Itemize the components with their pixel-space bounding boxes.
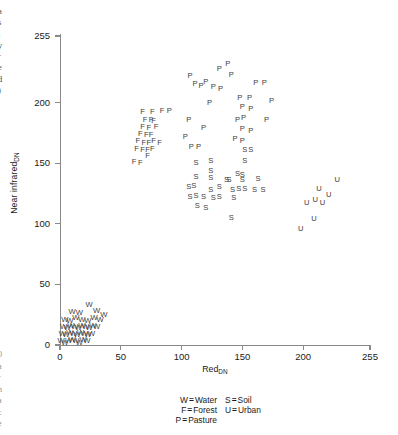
data-point-water: W bbox=[86, 301, 93, 309]
data-point-soil: S bbox=[195, 202, 200, 210]
legend-row: P=Pasture bbox=[160, 415, 290, 425]
data-point-soil: S bbox=[260, 186, 265, 194]
data-point-urban: U bbox=[313, 196, 318, 204]
data-point-soil: S bbox=[236, 185, 241, 193]
x-tick-label: 200 bbox=[288, 351, 318, 362]
data-point-urban: U bbox=[304, 199, 309, 207]
data-point-urban: U bbox=[316, 185, 321, 193]
legend-equals: = bbox=[181, 416, 188, 424]
data-point-soil: S bbox=[229, 214, 234, 222]
legend-item-forest: F=Forest bbox=[160, 405, 225, 415]
data-point-soil: S bbox=[242, 146, 247, 154]
x-axis-title: RedDN bbox=[160, 364, 270, 374]
legend-item-pasture: P=Pasture bbox=[160, 415, 225, 425]
y-axis-title-subscript: DN bbox=[13, 152, 20, 161]
data-point-pasture: P bbox=[196, 144, 201, 152]
y-tick-label: 0 bbox=[24, 339, 50, 350]
data-point-forest: F bbox=[149, 132, 154, 140]
data-point-pasture: P bbox=[248, 105, 253, 113]
data-point-pasture: P bbox=[167, 107, 172, 115]
data-point-soil: S bbox=[208, 174, 213, 182]
data-point-pasture: P bbox=[241, 115, 246, 123]
legend-equals: = bbox=[231, 396, 238, 404]
data-point-pasture: P bbox=[203, 78, 208, 86]
scatter-plot-area: WWWWWWWWWWWWWWWWWWWWWWWWWWWWWWWWWWWWWWWF… bbox=[60, 36, 370, 345]
data-point-pasture: P bbox=[217, 65, 222, 73]
data-point-soil: S bbox=[242, 157, 247, 165]
data-point-pasture: P bbox=[211, 83, 216, 91]
data-point-pasture: P bbox=[207, 99, 212, 107]
y-tick-label: 50 bbox=[24, 278, 50, 289]
data-point-urban: U bbox=[326, 191, 331, 199]
data-point-forest: F bbox=[146, 124, 151, 132]
data-point-pasture: P bbox=[235, 116, 240, 124]
y-axis-title-text: Near infrared bbox=[9, 162, 19, 214]
data-point-pasture: P bbox=[201, 124, 206, 132]
data-point-soil: S bbox=[231, 195, 236, 203]
y-axis-title: Near infraredDN bbox=[6, 128, 22, 238]
data-point-pasture: P bbox=[189, 144, 194, 152]
data-point-urban: U bbox=[320, 199, 325, 207]
data-point-soil: S bbox=[188, 193, 193, 201]
legend: W=WaterS=SoilF=ForestU=UrbanP=Pasture bbox=[160, 395, 290, 425]
data-point-forest: F bbox=[157, 139, 162, 147]
data-point-urban: U bbox=[311, 215, 316, 223]
data-point-soil: S bbox=[201, 193, 206, 201]
legend-label: Urban bbox=[238, 405, 261, 415]
legend-item-soil: S=Soil bbox=[225, 395, 287, 405]
x-axis-title-text: Red bbox=[202, 364, 218, 374]
data-point-water: W bbox=[93, 323, 100, 331]
legend-equals: = bbox=[186, 406, 193, 414]
data-point-pasture: P bbox=[198, 82, 203, 90]
data-point-pasture: P bbox=[240, 138, 245, 146]
data-point-pasture: P bbox=[253, 79, 258, 87]
x-tick-mark bbox=[120, 345, 121, 350]
data-point-water: W bbox=[69, 308, 76, 316]
legend-key: W bbox=[180, 395, 188, 405]
data-point-pasture: P bbox=[247, 94, 252, 102]
data-point-forest: F bbox=[140, 109, 145, 117]
data-point-pasture: P bbox=[229, 71, 234, 79]
y-tick-label: 150 bbox=[24, 157, 50, 168]
data-point-water: W bbox=[100, 311, 107, 319]
data-point-pasture: P bbox=[225, 60, 230, 68]
data-point-pasture: P bbox=[264, 116, 269, 124]
data-point-pasture: P bbox=[186, 116, 191, 124]
data-point-pasture: P bbox=[218, 86, 223, 94]
data-point-pasture: P bbox=[248, 127, 253, 135]
figure-page: a s l y r e d ) 0 a r n a c e Near infra… bbox=[0, 0, 398, 435]
data-point-soil: S bbox=[242, 185, 247, 193]
data-point-pasture: P bbox=[240, 104, 245, 112]
x-tick-label: 50 bbox=[106, 351, 136, 362]
x-tick-label: 255 bbox=[355, 351, 385, 362]
data-point-soil: S bbox=[191, 182, 196, 190]
data-point-pasture: P bbox=[183, 133, 188, 141]
y-tick-label: 100 bbox=[24, 218, 50, 229]
data-point-soil: S bbox=[217, 184, 222, 192]
legend-equals: = bbox=[231, 406, 238, 414]
legend-row: F=ForestU=Urban bbox=[160, 405, 290, 415]
data-point-forest: F bbox=[132, 158, 137, 166]
data-point-pasture: P bbox=[233, 135, 238, 143]
y-tick-label: 255 bbox=[24, 30, 50, 41]
legend-label: Pasture bbox=[188, 415, 217, 425]
data-point-pasture: P bbox=[240, 126, 245, 134]
legend-label: Soil bbox=[238, 395, 252, 405]
data-point-soil: S bbox=[226, 176, 231, 184]
data-point-soil: S bbox=[194, 173, 199, 181]
data-point-soil: S bbox=[256, 175, 261, 183]
data-point-soil: S bbox=[230, 186, 235, 194]
data-point-soil: S bbox=[252, 186, 257, 194]
data-point-forest: F bbox=[134, 145, 139, 153]
x-axis-title-subscript: DN bbox=[218, 368, 227, 375]
legend-item-water: W=Water bbox=[160, 395, 225, 405]
data-point-pasture: P bbox=[262, 79, 267, 87]
legend-item-urban: U=Urban bbox=[225, 405, 287, 415]
data-point-forest: F bbox=[149, 116, 154, 124]
data-point-soil: S bbox=[248, 146, 253, 154]
data-point-soil: S bbox=[186, 184, 191, 192]
data-point-urban: U bbox=[298, 225, 303, 233]
data-point-water: W bbox=[76, 310, 83, 318]
data-point-soil: S bbox=[194, 192, 199, 200]
data-point-pasture: P bbox=[192, 81, 197, 89]
